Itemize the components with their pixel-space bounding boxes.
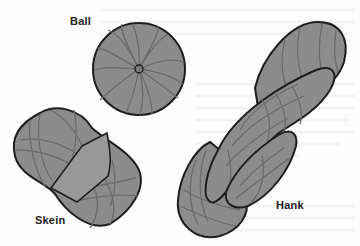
skein-label: Skein [35,214,65,226]
skein-illustration [14,108,141,228]
hank-label: Hank [276,199,304,211]
ball-illustration [93,23,185,115]
ball-label: Ball [70,15,91,27]
yarn-diagram: Ball Skein Hank [0,0,360,246]
